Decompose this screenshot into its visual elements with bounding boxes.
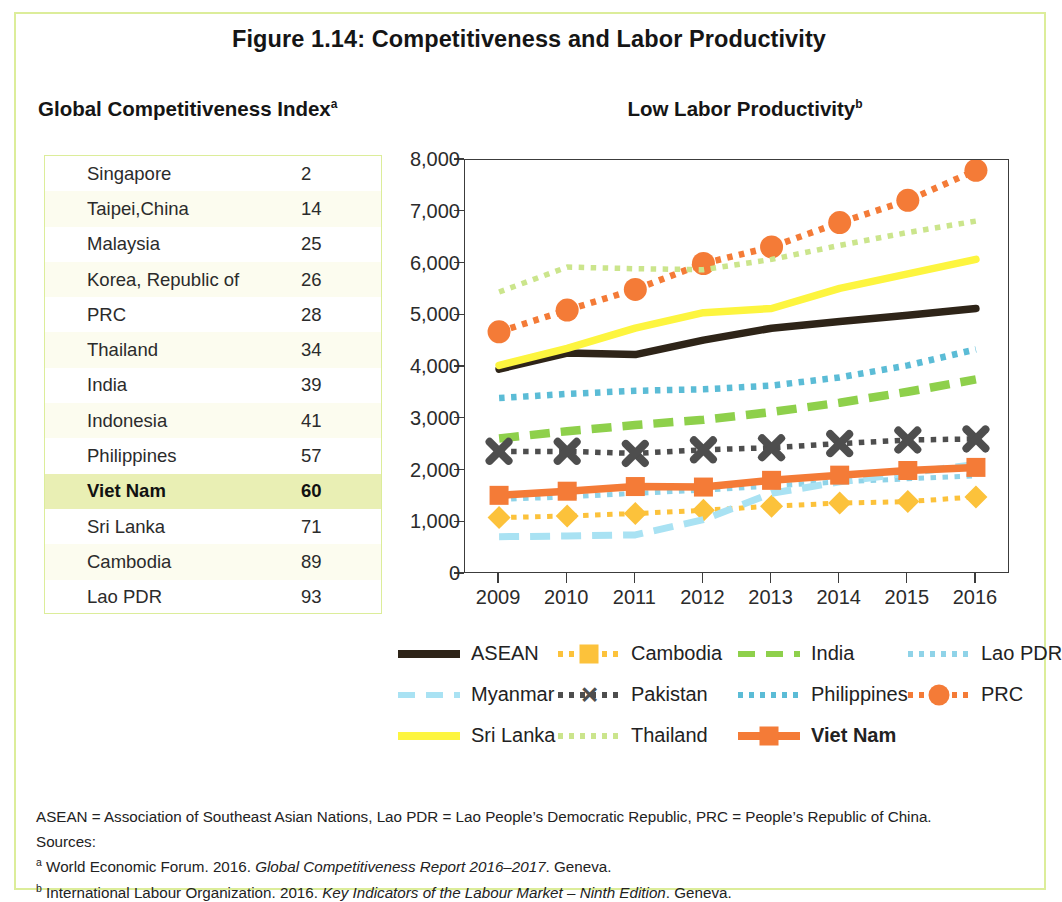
legend-item-myanmar[interactable]: Myanmar [398, 683, 554, 706]
table-row: Malaysia25 [45, 227, 381, 262]
legend-label-prc: PRC [981, 683, 1023, 706]
legend-label-asean: ASEAN [471, 642, 539, 665]
series-line-thailand [499, 221, 976, 292]
series-marker-prc [760, 235, 783, 258]
table-row: Lao PDR93 [45, 580, 381, 614]
figure-title: Figure 1.14: Competitiveness and Labor P… [0, 26, 1058, 53]
legend-item-vietnam[interactable]: Viet Nam [738, 724, 896, 747]
left-panel-title-superscript: a [331, 97, 338, 111]
series-marker-cambodia [828, 492, 851, 515]
legend-swatch-prc-icon [908, 684, 970, 706]
note-source-a: a World Economic Forum. 2016. Global Com… [36, 854, 1036, 880]
country-rank: 14 [301, 198, 381, 220]
series-marker-pakistan [490, 442, 509, 461]
legend-row: Myanmar✕PakistanPhilippinesPRC [398, 674, 1048, 715]
series-marker-pakistan [830, 434, 849, 453]
note-source-b-title: Key Indicators of the Labour Market – Ni… [322, 884, 666, 901]
table-row: India39 [45, 368, 381, 403]
country-name: Viet Nam [87, 480, 301, 502]
legend-item-philippines[interactable]: Philippines [738, 683, 908, 706]
country-name: Korea, Republic of [87, 269, 301, 291]
legend-swatch-india-icon [738, 643, 800, 665]
legend-label-srilanka: Sri Lanka [471, 724, 556, 747]
table-row: Philippines57 [45, 438, 381, 473]
legend-label-lao: Lao PDR [981, 642, 1062, 665]
right-panel-title-text: Low Labor Productivity [627, 97, 855, 120]
country-name: Cambodia [87, 551, 301, 573]
legend-label-myanmar: Myanmar [471, 683, 554, 706]
series-marker-prc [488, 320, 511, 343]
note-source-b-post: . Geneva. [666, 884, 732, 901]
table-row: Singapore2 [45, 156, 381, 191]
legend-item-lao[interactable]: Lao PDR [908, 642, 1062, 665]
legend-item-srilanka[interactable]: Sri Lanka [398, 724, 556, 747]
legend-label-thailand: Thailand [631, 724, 708, 747]
table-row: Korea, Republic of26 [45, 262, 381, 297]
legend-item-thailand[interactable]: Thailand [558, 724, 708, 747]
x-axis-tick [906, 573, 907, 583]
legend-swatch-philippines-icon [738, 684, 800, 706]
legend-label-pakistan: Pakistan [631, 683, 708, 706]
gci-table: Singapore2Taipei,China14Malaysia25Korea,… [44, 155, 382, 614]
country-rank: 89 [301, 551, 381, 573]
table-row: Indonesia41 [45, 403, 381, 438]
country-rank: 26 [301, 269, 381, 291]
table-row: PRC28 [45, 297, 381, 332]
legend-item-india[interactable]: India [738, 642, 854, 665]
legend-label-vietnam: Viet Nam [811, 724, 896, 747]
series-marker-vietnam [898, 461, 917, 480]
legend-item-pakistan[interactable]: ✕Pakistan [558, 683, 708, 706]
chart-series-svg [465, 160, 1009, 573]
y-axis-label: 4,000 [390, 355, 460, 378]
left-panel-title-text: Global Competitiveness Index [38, 97, 331, 120]
legend-swatch-lao-icon [908, 643, 970, 665]
series-line-india [499, 379, 976, 438]
note-source-a-pre: World Economic Forum. 2016. [46, 858, 255, 875]
country-name: India [87, 374, 301, 396]
labor-productivity-chart: 01,0002,0003,0004,0005,0006,0007,0008,00… [400, 150, 1045, 620]
chart-legend: ASEANCambodiaIndiaLao PDRMyanmar✕Pakista… [398, 633, 1048, 756]
y-axis-label: 2,000 [390, 458, 460, 481]
country-name: Malaysia [87, 233, 301, 255]
legend-marker-pakistan-icon: ✕ [580, 683, 599, 706]
right-panel-title: Low Labor Productivityb [520, 97, 970, 121]
legend-marker-vietnam-icon [760, 726, 779, 745]
series-marker-vietnam [830, 466, 849, 485]
country-name: Sri Lanka [87, 516, 301, 538]
country-rank: 25 [301, 233, 381, 255]
country-rank: 28 [301, 304, 381, 326]
y-axis-label: 3,000 [390, 406, 460, 429]
note-abbreviations: ASEAN = Association of Southeast Asian N… [36, 805, 1036, 830]
legend-item-cambodia[interactable]: Cambodia [558, 642, 722, 665]
left-panel-title: Global Competitiveness Indexa [38, 97, 337, 121]
country-rank: 34 [301, 339, 381, 361]
series-marker-prc [896, 189, 919, 212]
legend-label-cambodia: Cambodia [631, 642, 722, 665]
country-rank: 39 [301, 374, 381, 396]
series-marker-cambodia [964, 485, 987, 508]
legend-label-india: India [811, 642, 854, 665]
legend-swatch-srilanka-icon [398, 725, 460, 747]
country-name: Thailand [87, 339, 301, 361]
series-marker-prc [828, 211, 851, 234]
legend-swatch-pakistan-icon: ✕ [558, 684, 620, 706]
legend-swatch-myanmar-icon [398, 684, 460, 706]
legend-row: ASEANCambodiaIndiaLao PDR [398, 633, 1048, 674]
series-marker-cambodia [556, 505, 579, 528]
series-marker-pakistan [694, 440, 713, 459]
legend-item-asean[interactable]: ASEAN [398, 642, 539, 665]
country-rank: 2 [301, 163, 381, 185]
country-name: Taipei,China [87, 198, 301, 220]
y-axis-label: 8,000 [390, 148, 460, 171]
series-marker-cambodia [896, 490, 919, 513]
country-rank: 71 [301, 516, 381, 538]
table-row: Sri Lanka71 [45, 509, 381, 544]
chart-plot-area [464, 159, 1009, 573]
legend-item-prc[interactable]: PRC [908, 683, 1023, 706]
series-marker-cambodia [760, 495, 783, 518]
country-name: Indonesia [87, 410, 301, 432]
country-rank: 57 [301, 445, 381, 467]
legend-row: Sri LankaThailandViet Nam [398, 715, 1048, 756]
table-row: Cambodia89 [45, 544, 381, 579]
